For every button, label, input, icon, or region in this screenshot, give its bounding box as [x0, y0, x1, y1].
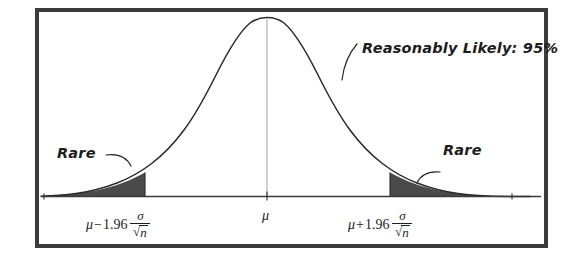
axis-label-lower-fraction: σ √ n — [130, 209, 150, 239]
rare-label-left: Rare — [57, 145, 96, 161]
axis-label-mean: μ — [262, 208, 269, 224]
axis-label-upper-radicand: n — [401, 225, 410, 239]
axis-label-lower-denominator: √ n — [131, 224, 150, 239]
reasonably-likely-label: Reasonably Likely: 95% — [362, 40, 558, 56]
axis-label-upper-fraction: σ √ n — [392, 209, 412, 239]
axis-label-lower-bound: μ − 1.96 σ √ n — [86, 210, 150, 240]
axis-label-upper-coefficient: 1.96 — [365, 217, 390, 233]
axis-label-upper-numerator: σ — [397, 209, 407, 223]
axis-label-lower-numerator: σ — [135, 209, 145, 223]
normal-distribution-figure: Rare Rare Reasonably Likely: 95% μ − 1.9… — [0, 0, 576, 264]
axis-label-upper-denominator: √ n — [393, 224, 412, 239]
axis-label-upper-operator: + — [356, 217, 364, 233]
axis-label-lower-radicand: n — [139, 225, 148, 239]
axis-label-lower-mean: μ — [86, 217, 93, 233]
axis-label-lower-coefficient: 1.96 — [103, 217, 128, 233]
axis-label-upper-bound: μ + 1.96 σ √ n — [348, 210, 412, 240]
axis-label-lower-operator: − — [94, 217, 102, 233]
rare-label-right: Rare — [443, 142, 482, 158]
axis-label-upper-mean: μ — [348, 217, 355, 233]
